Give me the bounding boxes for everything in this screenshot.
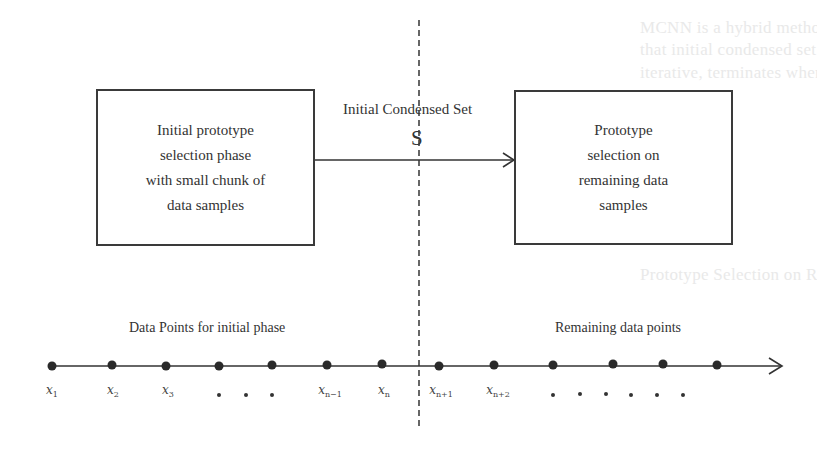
ellipsis-dot-icon [578, 392, 582, 396]
ellipsis-dot-icon [244, 393, 248, 397]
initial-phase-label: Data Points for initial phase [129, 320, 285, 336]
ellipsis-dot-icon [629, 393, 633, 397]
box-text-line: selection phase [160, 143, 251, 168]
condensed-set-symbol: S [411, 126, 423, 151]
box-text-line: selection on [587, 143, 659, 168]
ellipsis-dot-icon [270, 393, 274, 397]
box-text-line: samples [599, 193, 647, 218]
point-label-xn+1: xn+1 [429, 383, 453, 399]
ellipsis-dot-icon [655, 393, 659, 397]
box-text-line: Initial prototype [157, 118, 254, 143]
point-label-x1: x1 [46, 383, 58, 399]
ellipsis-dot-icon [604, 392, 608, 396]
point-label-xn: xn [378, 383, 390, 399]
box-text-line: remaining data [579, 168, 669, 193]
box-text-line: data samples [167, 193, 244, 218]
remaining-points-label: Remaining data points [555, 320, 681, 336]
ellipsis-dot-icon [551, 393, 555, 397]
point-label-xn+2: xn+2 [486, 383, 510, 399]
ellipsis-dot-icon [217, 393, 221, 397]
remaining-selection-box: Prototype selection on remaining data sa… [514, 90, 733, 245]
ellipsis-dot-icon [681, 393, 685, 397]
box-text-line: with small chunk of [146, 168, 266, 193]
initial-selection-box: Initial prototype selection phase with s… [96, 89, 315, 246]
point-label-xn-1: xn−1 [318, 383, 342, 399]
connector-label: Initial Condensed Set [343, 101, 472, 118]
point-label-x3: x3 [162, 383, 174, 399]
box-text-line: Prototype [594, 118, 652, 143]
point-label-x2: x2 [107, 383, 119, 399]
timeline-dots [48, 360, 722, 371]
